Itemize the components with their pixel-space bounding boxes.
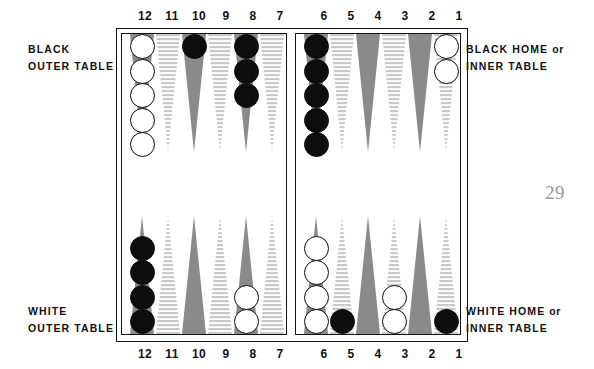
checker-black-top_right-6[interactable] — [304, 83, 329, 108]
checker-white-top_left-12[interactable] — [130, 83, 155, 108]
point-bottom_left-11[interactable] — [156, 216, 180, 334]
label-black-home-table: BLACK HOME or INNER TABLE — [466, 41, 564, 75]
point-number-3: 3 — [395, 8, 415, 24]
backgammon-diagram: 121110987654321 121110987654321 BLACK OU… — [0, 0, 594, 369]
point-number-7: 7 — [270, 8, 290, 24]
point-top_right-5[interactable] — [330, 34, 354, 152]
point-number-12: 12 — [135, 8, 155, 24]
checker-white-bottom_right-6[interactable] — [304, 309, 329, 334]
checker-white-top_left-12[interactable] — [130, 108, 155, 133]
label-white-home-line2: INNER TABLE — [466, 320, 561, 337]
checker-white-bottom_right-3[interactable] — [382, 309, 407, 334]
point-number-1: 1 — [449, 346, 469, 362]
point-number-4: 4 — [368, 346, 388, 362]
point-number-5: 5 — [341, 346, 361, 362]
checker-black-bottom_right-5[interactable] — [330, 309, 355, 334]
point-bottom_left-10[interactable] — [182, 216, 206, 334]
point-number-5: 5 — [341, 8, 361, 24]
board-half-right — [295, 33, 461, 335]
point-number-6: 6 — [314, 8, 334, 24]
checker-black-bottom_left-12[interactable] — [130, 236, 155, 261]
page-number: 29 — [545, 182, 565, 204]
point-number-11: 11 — [162, 8, 182, 24]
board-half-left — [121, 33, 287, 335]
label-black-home-line1: BLACK HOME or — [466, 41, 564, 58]
checker-black-top_right-6[interactable] — [304, 34, 329, 59]
point-number-1: 1 — [449, 8, 469, 24]
point-top_right-3[interactable] — [382, 34, 406, 152]
point-bottom_left-9[interactable] — [208, 216, 232, 334]
point-number-2: 2 — [422, 346, 442, 362]
label-black-outer-line2: OUTER TABLE — [28, 58, 114, 75]
backgammon-board — [116, 28, 468, 342]
checker-black-top_left-8[interactable] — [234, 34, 259, 59]
label-white-outer-line1: WHITE — [28, 303, 114, 320]
point-top_left-7[interactable] — [260, 34, 284, 152]
point-number-8: 8 — [243, 346, 263, 362]
checker-white-top_left-12[interactable] — [130, 34, 155, 59]
checker-black-top_left-8[interactable] — [234, 59, 259, 84]
checker-black-bottom_left-12[interactable] — [130, 309, 155, 334]
label-white-home-line1: WHITE HOME or — [466, 303, 561, 320]
point-number-6: 6 — [314, 346, 334, 362]
checker-black-bottom_left-12[interactable] — [130, 260, 155, 285]
point-number-10: 10 — [189, 346, 209, 362]
point-numbers-bottom: 121110987654321 — [0, 346, 594, 362]
point-number-4: 4 — [368, 8, 388, 24]
checker-black-bottom_left-12[interactable] — [130, 285, 155, 310]
label-black-home-or: or — [552, 43, 564, 55]
checker-black-bottom_right-1[interactable] — [434, 309, 459, 334]
label-white-outer-line2: OUTER TABLE — [28, 320, 114, 337]
point-number-12: 12 — [135, 346, 155, 362]
label-black-home-line2: INNER TABLE — [466, 58, 564, 75]
label-black-home-text: BLACK HOME — [466, 43, 548, 55]
checker-white-top_left-12[interactable] — [130, 59, 155, 84]
point-bottom_right-4[interactable] — [356, 216, 380, 334]
label-white-outer-table: WHITE OUTER TABLE — [28, 303, 114, 337]
label-black-outer-table: BLACK OUTER TABLE — [28, 41, 114, 75]
point-number-10: 10 — [189, 8, 209, 24]
checker-white-top_right-1[interactable] — [434, 34, 459, 59]
checker-white-bottom_right-6[interactable] — [304, 260, 329, 285]
point-top_left-11[interactable] — [156, 34, 180, 152]
checker-black-top_right-6[interactable] — [304, 59, 329, 84]
label-white-home-text: WHITE HOME — [466, 305, 545, 317]
checker-black-top_right-6[interactable] — [304, 108, 329, 133]
checker-white-bottom_right-6[interactable] — [304, 285, 329, 310]
point-number-2: 2 — [422, 8, 442, 24]
point-number-11: 11 — [162, 346, 182, 362]
checker-white-top_left-12[interactable] — [130, 132, 155, 157]
point-top_left-9[interactable] — [208, 34, 232, 152]
label-white-home-or: or — [549, 305, 561, 317]
checker-white-bottom_right-6[interactable] — [304, 236, 329, 261]
point-bottom_left-7[interactable] — [260, 216, 284, 334]
point-number-8: 8 — [243, 8, 263, 24]
point-number-7: 7 — [270, 346, 290, 362]
checker-white-bottom_left-8[interactable] — [234, 309, 259, 334]
label-white-home-table: WHITE HOME or INNER TABLE — [466, 303, 561, 337]
point-number-3: 3 — [395, 346, 415, 362]
point-top_right-4[interactable] — [356, 34, 380, 152]
checker-black-top_left-10[interactable] — [182, 34, 207, 59]
point-top_right-2[interactable] — [408, 34, 432, 152]
point-numbers-top: 121110987654321 — [0, 8, 594, 24]
checker-black-top_left-8[interactable] — [234, 83, 259, 108]
checker-white-bottom_left-8[interactable] — [234, 285, 259, 310]
checker-white-bottom_right-3[interactable] — [382, 285, 407, 310]
checker-white-top_right-1[interactable] — [434, 59, 459, 84]
label-black-outer-line1: BLACK — [28, 41, 114, 58]
checker-black-top_right-6[interactable] — [304, 132, 329, 157]
point-number-9: 9 — [216, 8, 236, 24]
point-bottom_right-2[interactable] — [408, 216, 432, 334]
point-number-9: 9 — [216, 346, 236, 362]
